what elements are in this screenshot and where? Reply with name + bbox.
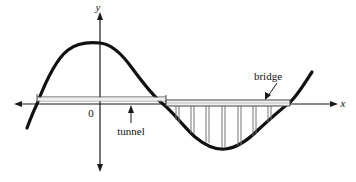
tunnel-label: tunnel (117, 125, 145, 137)
origin-label: 0 (88, 107, 94, 119)
figure-background (0, 0, 356, 182)
bridge-label: bridge (254, 70, 282, 82)
sine-curve-bridge-tunnel-figure: y x 0 tunnel (0, 0, 356, 182)
y-axis-label: y (95, 1, 101, 13)
tunnel-band-fill (37, 98, 166, 101)
x-axis-label: x (340, 97, 346, 109)
